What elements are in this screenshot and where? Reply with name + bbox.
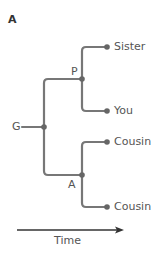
grandparent-label: G xyxy=(12,121,21,132)
family-tree-diagram: A G P A Sister You Cousin xyxy=(0,0,160,257)
cousin1-label: Cousin xyxy=(114,136,151,147)
aunt-node xyxy=(79,172,85,178)
time-arrow-icon xyxy=(17,227,124,234)
parent-node xyxy=(79,76,85,82)
tree-branches xyxy=(0,0,160,257)
sister-leaf-dot xyxy=(104,44,110,50)
aunt-label: A xyxy=(68,179,76,190)
parent-branch xyxy=(82,47,107,111)
grandparent-trunk xyxy=(44,79,82,175)
grandparent-node xyxy=(41,124,47,130)
you-label: You xyxy=(114,105,133,116)
time-axis-label: Time xyxy=(54,235,81,246)
sister-label: Sister xyxy=(114,41,145,52)
cousin1-leaf-dot xyxy=(104,139,110,145)
cousin2-label: Cousin xyxy=(114,201,151,212)
parent-label: P xyxy=(71,66,78,77)
aunt-branch xyxy=(82,142,107,207)
cousin2-leaf-dot xyxy=(104,204,110,210)
you-leaf-dot xyxy=(104,108,110,114)
